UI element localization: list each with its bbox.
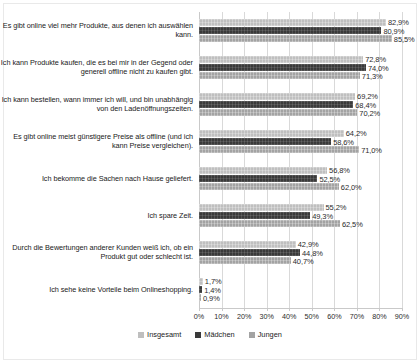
bar-row: 82,9% [199,19,402,26]
bar-texture [199,93,355,100]
bar-jungen [199,183,339,190]
legend-item-mädchen[interactable]: Mädchen [195,330,234,339]
x-axis-tick [402,308,403,311]
category-label: Ich kann Produkte kaufen, die es bei mir… [0,58,197,77]
x-axis-tick [357,308,358,311]
bar-texture [199,241,296,248]
category-label: Es gibt online viel mehr Produkte, aus d… [0,21,197,40]
category-label: Ich kann bestellen, wann immer ich will,… [0,95,197,114]
bar-insgesamt [199,278,203,285]
bar-texture [199,35,392,42]
bar-row: 72,8% [199,56,402,63]
bar-texture [199,56,363,63]
category-label: Durch die Bewertungen anderer Kunden wei… [0,243,197,262]
x-axis-tick [222,308,223,311]
chart-container: 82,9%80,9%85,5%72,8%74,0%71,3%69,2%68,4%… [0,0,420,363]
chart-legend: InsgesamtMädchenJungen [0,330,420,339]
bar-insgesamt [199,241,296,248]
bar-row: 1,4% [199,286,402,293]
bar-mädchen [199,249,300,256]
bar-value-label: 71,0% [361,145,382,154]
bar-mädchen [199,101,353,108]
category-label: Ich spare Zeit. [0,211,197,220]
bar-mädchen [199,286,202,293]
bar-jungen [199,109,357,116]
legend-item-jungen[interactable]: Jungen [249,330,282,339]
bar-jungen [199,35,392,42]
legend-swatch-icon [249,332,255,338]
bar-value-label: 85,5% [394,34,415,43]
bar-value-label: 71,3% [362,71,383,80]
legend-swatch-icon [195,332,201,338]
bar-insgesamt [199,19,386,26]
bar-texture [199,257,291,264]
bar-mädchen [199,64,366,71]
bar-row: 74,0% [199,64,402,71]
x-axis-tick-label: 0% [194,312,204,321]
bar-insgesamt [199,130,344,137]
legend-label: Jungen [258,330,282,339]
category-label: Ich bekomme die Sachen nach Hause gelief… [0,174,197,183]
bar-texture [199,278,203,285]
x-axis-tick [199,308,200,311]
bar-texture [199,220,340,227]
bar-texture [199,130,344,137]
x-axis-tick [334,308,335,311]
bar-mädchen [199,138,331,145]
bar-jungen [199,257,291,264]
bar-value-label: 52,5% [319,174,340,183]
bar-jungen [199,294,201,301]
x-axis-tick [289,308,290,311]
bar-value-label: 62,0% [341,182,362,191]
bar-row: 69,2% [199,93,402,100]
x-axis-tick-label: 50% [305,312,319,321]
legend-label: Mädchen [204,330,234,339]
bar-texture [199,175,317,182]
bar-jungen [199,220,340,227]
x-axis-tick [244,308,245,311]
bar-insgesamt [199,204,324,211]
bar-insgesamt [199,167,327,174]
bar-texture [199,294,201,301]
x-axis-tick-label: 40% [282,312,296,321]
legend-label: Insgesamt [147,330,181,339]
bar-row: 70,2% [199,109,402,116]
bar-value-label: 49,3% [312,211,333,220]
bar-texture [199,72,360,79]
legend-item-insgesamt[interactable]: Insgesamt [138,330,181,339]
bar-row: 85,5% [199,35,402,42]
bar-row: 71,0% [199,146,402,153]
bar-mädchen [199,27,381,34]
bar-texture [199,64,366,71]
bar-row: 64,2% [199,130,402,137]
bar-mädchen [199,175,317,182]
bar-value-label: 58,6% [333,137,354,146]
bar-texture [199,167,327,174]
bar-row: 80,9% [199,27,402,34]
bar-row: 55,2% [199,204,402,211]
bar-value-label: 40,7% [293,256,314,265]
category-label: Ich sehe keine Vorteile beim Onlineshopp… [0,285,197,294]
bar-insgesamt [199,93,355,100]
bar-row: 58,6% [199,138,402,145]
bar-texture [199,27,381,34]
bar-row: 0,9% [199,294,402,301]
bar-texture [199,204,324,211]
bar-row: 44,8% [199,249,402,256]
bar-texture [199,109,357,116]
bar-row: 62,5% [199,220,402,227]
x-axis-tick-label: 90% [395,312,409,321]
bar-texture [199,183,339,190]
bar-row: 68,4% [199,101,402,108]
bar-insgesamt [199,56,363,63]
legend-swatch-icon [138,332,144,338]
bar-value-label: 0,9% [203,293,220,302]
bar-row: 52,5% [199,175,402,182]
bar-jungen [199,146,359,153]
x-axis-tick [312,308,313,311]
bar-value-label: 70,2% [359,108,380,117]
plot-area: 82,9%80,9%85,5%72,8%74,0%71,3%69,2%68,4%… [199,12,402,308]
bar-texture [199,286,202,293]
x-axis-tick-label: 20% [237,312,251,321]
category-label: Es gibt online meist günstigere Preise a… [0,132,197,151]
